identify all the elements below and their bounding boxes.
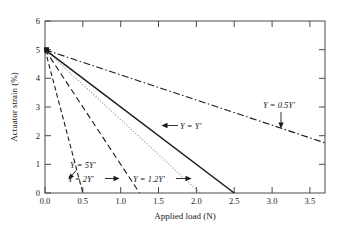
y-tick-label: 1 xyxy=(36,159,40,169)
annotation-label-1.2Y: Y = 1.2Y′ xyxy=(133,174,165,184)
y-axis-title: Actuator strain (%) xyxy=(9,72,19,141)
x-tick-label: 3.5 xyxy=(305,196,316,206)
x-tick-label: 1.5 xyxy=(153,196,164,206)
x-axis-title: Applied load (N) xyxy=(154,211,215,221)
chart-background xyxy=(0,0,343,235)
annotation-label-5Y: Y = 5Y′ xyxy=(70,160,96,170)
origin-convergence-marker xyxy=(44,47,49,52)
annotation-label-0.5Y: Y = 0.5Y′ xyxy=(263,100,295,110)
x-tick-label: 2.0 xyxy=(191,196,202,206)
figure-container: 0.0 0.5 1.0 1.5 2.0 2.5 3.0 3.5 0 1 2 3 … xyxy=(0,0,343,235)
annotation-label-1Y: Y = Y′ xyxy=(180,121,201,131)
y-tick-label: 6 xyxy=(36,16,40,26)
x-tick-label: 1.0 xyxy=(115,196,126,206)
y-tick-label: 5 xyxy=(36,45,40,55)
y-tick-label: 0 xyxy=(36,188,40,198)
x-tick-label: 3.0 xyxy=(267,196,278,206)
y-tick-label: 2 xyxy=(36,131,40,141)
x-tick-label: 0.5 xyxy=(77,196,88,206)
x-tick-label: 0.0 xyxy=(40,196,51,206)
y-tick-label: 3 xyxy=(36,102,40,112)
x-tick-label: 2.5 xyxy=(229,196,240,206)
actuator-strain-vs-applied-load-chart: 0.0 0.5 1.0 1.5 2.0 2.5 3.0 3.5 0 1 2 3 … xyxy=(0,0,343,235)
